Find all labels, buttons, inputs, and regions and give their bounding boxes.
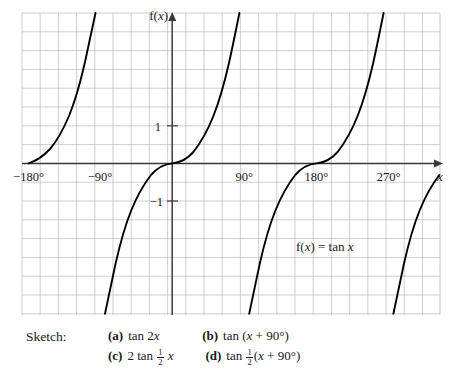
fraction-half-c: 12 (157, 348, 163, 366)
var-x-a: x (154, 328, 160, 343)
question-item-c: (c) 2 tan 12 x (108, 348, 205, 366)
tan-word-c: tan (137, 348, 153, 363)
x-tick-label-180: 180° (305, 170, 329, 184)
x-tick-label--90: −90° (88, 170, 113, 184)
x-axis-arrowhead (434, 159, 443, 167)
question-tag-d: (d) (205, 348, 221, 364)
var-x-c: x (168, 348, 174, 363)
tan-word-a: tan (128, 328, 144, 343)
question-tag-b: (b) (202, 328, 218, 344)
tangent-graph-figure: −180° −90° 90° 180° 270° 1 −1 f(x) x f(x… (0, 0, 451, 383)
svg-text:f(x) = tan x: f(x) = tan x (296, 239, 354, 254)
question-item-b: (b) tan (x + 90°) (202, 328, 289, 344)
fraction-denominator-c: 2 (157, 358, 163, 367)
x-tick-label-90: 90° (236, 170, 254, 184)
question-row-1: (a) tan 2x (b) tan (x + 90°) (108, 328, 289, 344)
x-tick-label--180: −180° (13, 170, 44, 184)
fraction-denominator-d: 2 (246, 358, 252, 367)
x-tick-label-270: 270° (377, 170, 401, 184)
x-axis-title: x (436, 169, 443, 184)
axis-name-labels: f(x) x (149, 8, 443, 184)
y-tick-label-1: 1 (155, 120, 161, 134)
y-axis-arrowhead (168, 12, 176, 21)
y-axis-title: f(x) (149, 8, 168, 23)
tangent-plot-svg: −180° −90° 90° 180° 270° 1 −1 f(x) x f(x… (0, 0, 451, 383)
question-expr-b: tan (x + 90°) (223, 328, 289, 344)
question-tag-c: (c) (108, 348, 122, 364)
question-tag-a: (a) (108, 328, 123, 344)
rparen-d: ) (296, 348, 300, 363)
var-x-b: x (247, 328, 253, 343)
question-expr-d: tan 12(x + 90°) (226, 348, 300, 366)
plus-b: + (256, 328, 263, 343)
var-x-d: x (258, 348, 264, 363)
tan-word-b: tan (223, 328, 239, 343)
question-item-d: (d) tan 12(x + 90°) (205, 348, 300, 366)
coef-2-c: 2 (127, 348, 134, 363)
question-item-a: (a) tan 2x (108, 328, 202, 344)
function-annotation: f(x) = tan x (296, 239, 354, 254)
y-tick-label--1: −1 (150, 195, 163, 209)
fraction-half-d: 12 (246, 348, 252, 366)
question-expr-c: 2 tan 12 x (127, 348, 205, 366)
curve-branch-4 (393, 175, 439, 314)
plus-d: + (267, 348, 274, 363)
tan-word-d: tan (226, 348, 242, 363)
question-row-2: (c) 2 tan 12 x (d) tan 12(x + 90°) (108, 348, 300, 366)
sketch-prompt: Sketch: (26, 329, 67, 345)
rparen-b: ) (284, 328, 288, 343)
deg90-b: 90° (266, 328, 284, 343)
question-expr-a: tan 2x (128, 328, 202, 344)
deg90-d: 90° (278, 348, 296, 363)
